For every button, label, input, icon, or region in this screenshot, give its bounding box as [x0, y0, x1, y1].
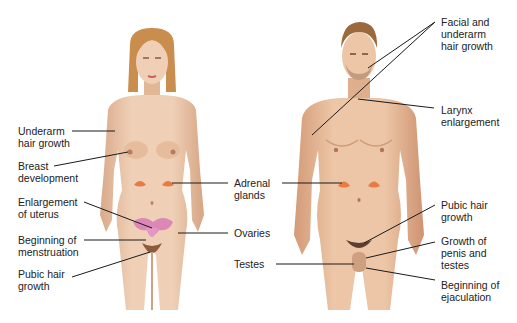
label-adrenal-glands: Adrenal glands — [234, 177, 270, 201]
label-pubic-hair-growth-female: Pubic hair growth — [18, 268, 65, 292]
label-breast-development: Breast development — [18, 160, 78, 184]
label-testes: Testes — [234, 258, 264, 270]
female-figure — [100, 28, 204, 310]
puberty-diagram: Underarm hair growth Breast development … — [0, 0, 517, 323]
label-facial-underarm-hair-growth: Facial and underarm hair growth — [441, 16, 493, 52]
label-growth-of-penis-and-testes: Growth of penis and testes — [441, 235, 487, 271]
male-figure — [294, 22, 424, 310]
label-beginning-of-ejaculation: Beginning of ejaculation — [441, 279, 499, 303]
label-ovaries: Ovaries — [234, 227, 270, 239]
label-pubic-hair-growth-male: Pubic hair growth — [441, 199, 488, 223]
label-underarm-hair-growth-female: Underarm hair growth — [18, 125, 70, 149]
label-beginning-of-menstruation: Beginning of menstruation — [18, 234, 79, 258]
label-larynx-enlargement: Larynx enlargement — [441, 104, 499, 128]
label-enlargement-of-uterus: Enlargement of uterus — [18, 196, 78, 220]
